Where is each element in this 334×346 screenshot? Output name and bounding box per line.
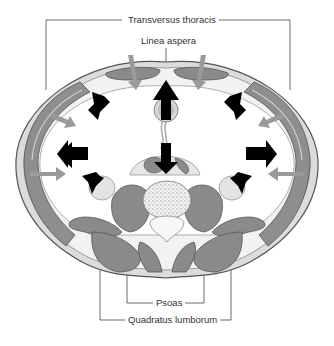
label-psoas: Psoas <box>153 297 185 308</box>
label-linea-aspera: Linea aspera <box>138 35 199 46</box>
anatomy-diagram: Transversus thoracis Linea aspera Psoas … <box>0 0 334 346</box>
label-quadratus-lumborum: Quadratus lumborum <box>125 314 220 325</box>
abdomen-cross-section <box>0 0 334 346</box>
label-transversus-thoracis: Transversus thoracis <box>125 14 219 25</box>
